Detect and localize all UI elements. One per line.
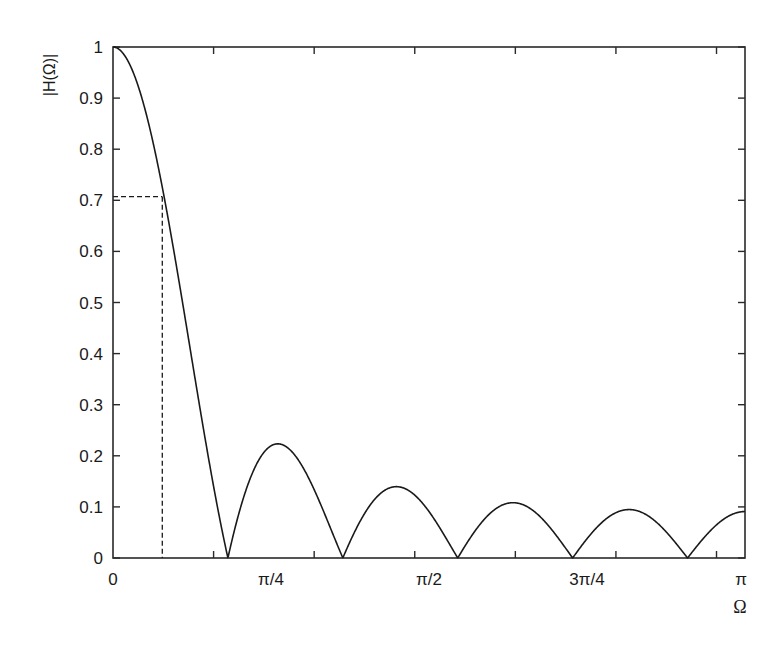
x-tick-label: π bbox=[735, 570, 747, 589]
y-tick-label: 0.1 bbox=[79, 498, 103, 517]
y-tick-label: 1 bbox=[94, 38, 103, 57]
x-tick-label: 0 bbox=[108, 570, 117, 589]
plot-frame bbox=[113, 47, 745, 558]
magnitude-curve bbox=[113, 47, 745, 558]
y-tick-label: 0.6 bbox=[79, 242, 103, 261]
y-tick-label: 0.5 bbox=[79, 294, 103, 313]
y-axis-ticks: 00.10.20.30.40.50.60.70.80.91 bbox=[79, 38, 745, 568]
y-tick-label: 0.2 bbox=[79, 447, 103, 466]
y-tick-label: 0.7 bbox=[79, 191, 103, 210]
x-tick-label: π/2 bbox=[416, 570, 442, 589]
magnitude-response-chart: 00.10.20.30.40.50.60.70.80.91 0π/4π/23π/… bbox=[0, 0, 771, 645]
y-axis-label: |H(Ω)| bbox=[41, 54, 58, 96]
x-axis-label: Ω bbox=[733, 597, 746, 617]
cutoff-annotation bbox=[113, 197, 162, 558]
y-tick-label: 0.8 bbox=[79, 140, 103, 159]
y-tick-label: 0 bbox=[94, 549, 103, 568]
y-tick-label: 0.9 bbox=[79, 89, 103, 108]
x-tick-label: π/4 bbox=[258, 570, 284, 589]
x-tick-label: 3π/4 bbox=[569, 570, 604, 589]
y-tick-label: 0.4 bbox=[79, 345, 103, 364]
axes-box bbox=[113, 47, 745, 558]
x-axis-ticks: 0π/4π/23π/4π bbox=[108, 47, 747, 589]
y-tick-label: 0.3 bbox=[79, 396, 103, 415]
